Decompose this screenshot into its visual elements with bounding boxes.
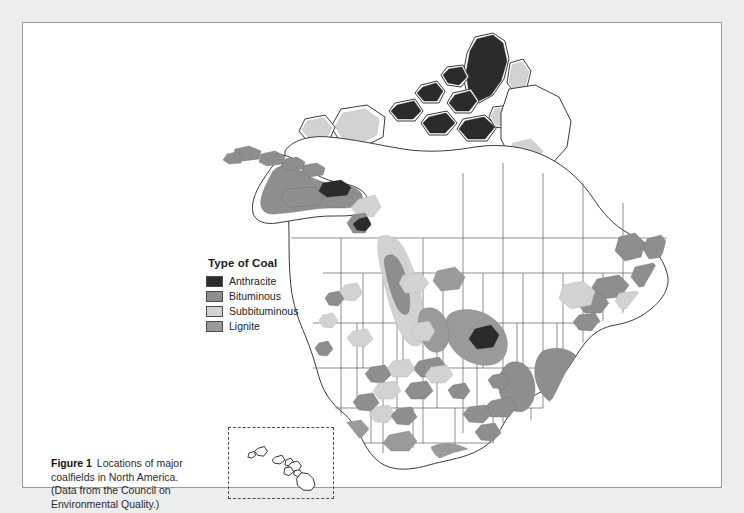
legend-swatch-bituminous: [206, 291, 223, 302]
figure-page: .ld{fill:#ffffff;stroke:#3b3b3b;stroke-w…: [0, 0, 744, 513]
legend-swatch-subbituminous: [206, 306, 223, 317]
legend-item-bituminous: Bituminous: [206, 289, 336, 303]
legend-item-anthracite: Anthracite: [206, 274, 336, 288]
legend-item-subbituminous: Subbituminous: [206, 304, 336, 318]
hawaii-inset: [228, 427, 334, 499]
north-america-map: .ld{fill:#ffffff;stroke:#3b3b3b;stroke-w…: [23, 23, 723, 489]
figure-caption: Figure 1Locations of major coalfields in…: [51, 457, 206, 511]
legend-label-subbituminous: Subbituminous: [229, 305, 298, 317]
map-legend: Type of Coal Anthracite Bituminous Subbi…: [206, 257, 336, 334]
legend-label-bituminous: Bituminous: [229, 290, 281, 302]
figure-panel: .ld{fill:#ffffff;stroke:#3b3b3b;stroke-w…: [22, 22, 722, 488]
legend-item-lignite: Lignite: [206, 319, 336, 333]
legend-label-anthracite: Anthracite: [229, 275, 276, 287]
legend-swatch-anthracite: [206, 276, 223, 287]
legend-label-lignite: Lignite: [229, 320, 260, 332]
map-svg: .ld{fill:#ffffff;stroke:#3b3b3b;stroke-w…: [23, 23, 723, 489]
legend-swatch-lignite: [206, 321, 223, 332]
hawaii-inset-svg: [229, 428, 333, 498]
legend-title: Type of Coal: [208, 257, 336, 269]
figure-caption-label: Figure 1: [51, 457, 92, 469]
